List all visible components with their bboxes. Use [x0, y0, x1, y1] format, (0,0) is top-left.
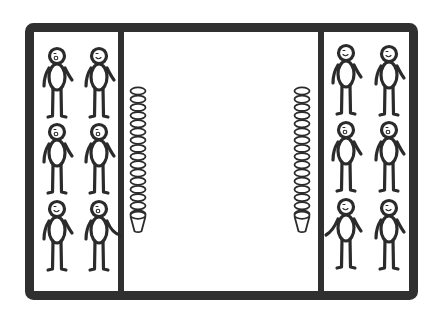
cup-rim: [295, 153, 310, 160]
cup-rim: [131, 145, 146, 152]
head: [92, 49, 107, 64]
cup-rim: [295, 104, 310, 111]
head: [382, 47, 397, 62]
torso: [49, 217, 65, 243]
cup-rim: [131, 194, 146, 201]
cup-rim: [131, 87, 146, 94]
torso: [91, 217, 107, 243]
cup-rim: [295, 87, 310, 94]
cup-stacking-illustration: [0, 0, 441, 319]
torso: [381, 138, 397, 164]
cup-rim: [295, 120, 310, 127]
torso: [338, 61, 354, 87]
cup-rim: [131, 178, 146, 185]
cup-rim: [131, 169, 146, 176]
torso: [381, 216, 397, 242]
cup-rim: [295, 186, 310, 193]
right-cup-stack: [295, 87, 310, 232]
cup-rim: [131, 202, 146, 209]
cup-rim: [131, 153, 146, 160]
cup-rim: [295, 128, 310, 135]
head: [339, 46, 354, 61]
cup-rim: [295, 169, 310, 176]
cup-rim: [295, 202, 310, 209]
cup-rim: [131, 137, 146, 144]
cup-rim: [131, 112, 146, 119]
cup-rim: [131, 104, 146, 111]
cup-rim: [131, 96, 146, 103]
cup-rim: [295, 137, 310, 144]
torso: [381, 62, 397, 88]
head: [339, 200, 354, 215]
cup-rim: [295, 112, 310, 119]
cup-rim: [131, 212, 146, 219]
head: [382, 201, 397, 216]
torso: [338, 215, 354, 241]
torso: [49, 64, 65, 90]
cup-rim: [295, 194, 310, 201]
cup-rim: [295, 145, 310, 152]
cup-rim: [131, 120, 146, 127]
cup-rim: [131, 186, 146, 193]
cup-rim: [295, 178, 310, 185]
cup-rim: [295, 96, 310, 103]
cup-rim: [295, 212, 310, 219]
cup-rim: [295, 161, 310, 168]
cup-rim: [131, 128, 146, 135]
torso: [91, 64, 107, 90]
cup-rim: [131, 161, 146, 168]
torso: [49, 140, 65, 166]
left-cup-stack: [131, 87, 146, 232]
torso: [338, 138, 354, 164]
head: [50, 202, 65, 217]
torso: [91, 140, 107, 166]
